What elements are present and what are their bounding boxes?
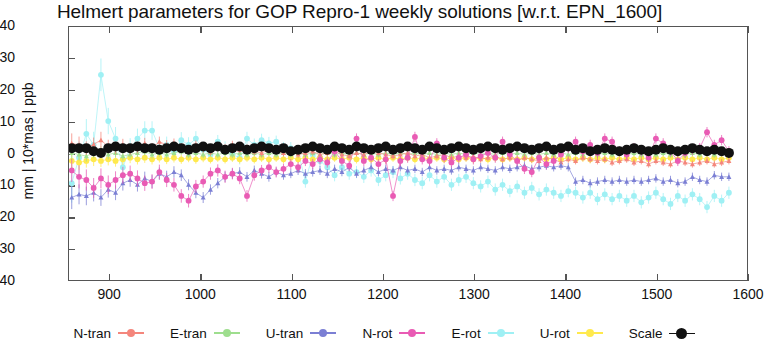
y-tick-label: -40 [0, 273, 15, 287]
y-tick-label: -20 [0, 209, 15, 223]
x-tick-label: 1000 [185, 286, 216, 302]
y-axis-label: mm | 10*mas | ppb [20, 21, 36, 261]
legend-item-u-rot[interactable]: U-rot [540, 326, 603, 341]
legend-item-label: N-tran [74, 326, 112, 341]
chart-title: Helmert parameters for GOP Repro-1 weekl… [57, 1, 662, 23]
y-tick-label: 30 [0, 50, 15, 64]
x-tick-label: 1100 [277, 286, 307, 302]
helmert-parameters-chart-figure: Helmert parameters for GOP Repro-1 weekl… [0, 0, 769, 347]
legend-marker-icon [488, 328, 514, 338]
legend-item-u-tran[interactable]: U-tran [266, 326, 337, 341]
plot-canvas [69, 27, 749, 282]
legend-marker-icon [577, 328, 603, 338]
legend-marker-icon [214, 328, 240, 338]
x-tick-label: 1400 [550, 286, 581, 302]
legend-item-label: U-tran [266, 326, 304, 341]
legend-marker-icon [399, 328, 425, 338]
plot-area [68, 26, 748, 281]
legend-item-label: E-rot [451, 326, 480, 341]
chart-legend: N-tranE-tranU-tranN-rotE-rotU-rotScale [0, 322, 769, 344]
y-tick-label: 10 [0, 114, 15, 128]
legend-item-label: Scale [629, 326, 663, 341]
legend-item-label: U-rot [540, 326, 570, 341]
legend-item-label: E-tran [170, 326, 207, 341]
legend-item-n-tran[interactable]: N-tran [74, 326, 145, 341]
legend-marker-icon [310, 328, 336, 338]
y-tick-label: 0 [0, 146, 15, 160]
legend-marker-icon [118, 328, 144, 338]
legend-item-scale[interactable]: Scale [629, 326, 696, 341]
y-tick-label: -30 [0, 241, 15, 255]
x-tick-label: 1200 [367, 286, 398, 302]
y-tick-label: -10 [0, 177, 15, 191]
x-tick-label: 1500 [641, 286, 672, 302]
x-tick-label: 1300 [459, 286, 490, 302]
legend-item-e-tran[interactable]: E-tran [170, 326, 240, 341]
x-tick-label: 1600 [732, 286, 763, 302]
legend-marker-icon [669, 328, 695, 338]
legend-item-e-rot[interactable]: E-rot [451, 326, 513, 341]
legend-item-n-rot[interactable]: N-rot [362, 326, 425, 341]
y-tick-label: 40 [0, 18, 15, 32]
legend-item-label: N-rot [362, 326, 392, 341]
x-tick-label: 900 [97, 286, 120, 302]
y-tick-label: 20 [0, 82, 15, 96]
